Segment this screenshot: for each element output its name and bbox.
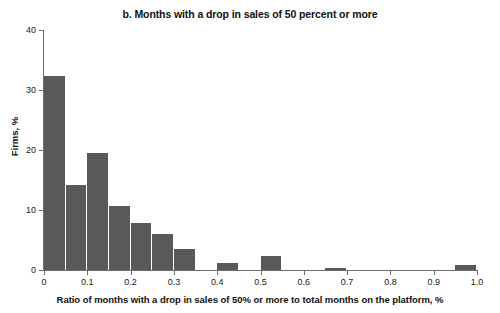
- histogram-bar: [131, 223, 153, 270]
- y-tick-mark: [39, 90, 43, 91]
- x-tick-mark: [174, 271, 175, 275]
- x-tick-label: 0.6: [284, 277, 324, 287]
- x-tick-label: 1.0: [457, 277, 497, 287]
- y-tick-mark: [39, 150, 43, 151]
- x-tick-label: 0.8: [370, 277, 410, 287]
- plot-area: [44, 30, 477, 270]
- histogram-bar: [325, 268, 347, 270]
- histogram-bar: [217, 263, 239, 270]
- histogram-bar: [174, 249, 196, 270]
- y-tick-mark: [39, 270, 43, 271]
- histogram-bar: [44, 76, 66, 270]
- x-tick-mark: [390, 271, 391, 275]
- x-tick-label: 0.3: [154, 277, 194, 287]
- x-tick-label: 0.4: [197, 277, 237, 287]
- chart-title: b. Months with a drop in sales of 50 per…: [0, 8, 500, 20]
- chart-figure: b. Months with a drop in sales of 50 per…: [0, 0, 500, 313]
- y-tick-mark: [39, 30, 43, 31]
- y-tick-label: 20: [0, 145, 36, 155]
- histogram-bar: [152, 234, 174, 270]
- x-tick-mark: [261, 271, 262, 275]
- y-tick-label: 30: [0, 85, 36, 95]
- x-axis-label: Ratio of months with a drop in sales of …: [0, 294, 500, 305]
- histogram-bar: [66, 185, 88, 270]
- y-tick-label: 10: [0, 205, 36, 215]
- y-tick-mark: [39, 210, 43, 211]
- x-tick-label: 0.2: [111, 277, 151, 287]
- histogram-bar: [109, 206, 131, 270]
- histogram-bar: [261, 256, 283, 270]
- x-tick-mark: [131, 271, 132, 275]
- x-tick-mark: [434, 271, 435, 275]
- y-tick-label: 0: [0, 265, 36, 275]
- x-tick-label: 0.5: [241, 277, 281, 287]
- x-tick-mark: [217, 271, 218, 275]
- x-tick-mark: [304, 271, 305, 275]
- x-tick-mark: [347, 271, 348, 275]
- x-tick-mark: [477, 271, 478, 275]
- x-tick-mark: [44, 271, 45, 275]
- x-tick-label: 0: [24, 277, 64, 287]
- y-tick-label: 40: [0, 25, 36, 35]
- histogram-bar: [87, 153, 109, 270]
- x-tick-label: 0.7: [327, 277, 367, 287]
- x-tick-mark: [87, 271, 88, 275]
- histogram-bar: [455, 265, 477, 270]
- x-tick-label: 0.1: [67, 277, 107, 287]
- x-tick-label: 0.9: [414, 277, 454, 287]
